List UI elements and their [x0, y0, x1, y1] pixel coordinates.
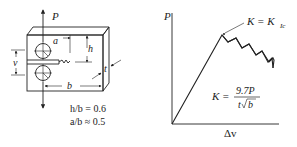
crack-length-label: a	[53, 35, 58, 46]
svg-text:K = K: K = K	[246, 15, 275, 27]
svg-text:b: b	[248, 99, 253, 110]
height-label: h	[88, 43, 93, 54]
thickness-label: t	[104, 63, 107, 74]
peak-annotation: K = K Ic	[246, 15, 286, 30]
specimen-diagram	[11, 10, 121, 108]
load-displacement-chart	[172, 13, 279, 124]
load-curve	[172, 35, 274, 124]
ratio-h-b: h/b = 0.6	[70, 103, 106, 114]
crack	[59, 60, 70, 63]
svg-text:t: t	[238, 99, 241, 110]
specimen-side-face	[103, 27, 109, 91]
peak-leader-line	[225, 23, 244, 33]
stress-intensity-formula: K = 9.7P t b	[211, 85, 260, 110]
figure-canvas: P a h v b t h/b = 0.6 a/b ≈ 0.5 P Δv K =…	[0, 0, 297, 147]
notch	[27, 60, 59, 64]
svg-text:9.7P: 9.7P	[236, 85, 255, 96]
load-label: P	[51, 10, 59, 22]
x-axis-label: Δv	[224, 127, 237, 139]
svg-text:Ic: Ic	[279, 22, 286, 30]
ratio-a-b: a/b ≈ 0.5	[70, 116, 105, 127]
specimen-top-face	[27, 27, 109, 35]
opening-label: v	[13, 57, 18, 68]
svg-text:K =: K =	[211, 90, 230, 102]
width-label: b	[67, 80, 72, 91]
y-axis-label: P	[163, 10, 171, 22]
